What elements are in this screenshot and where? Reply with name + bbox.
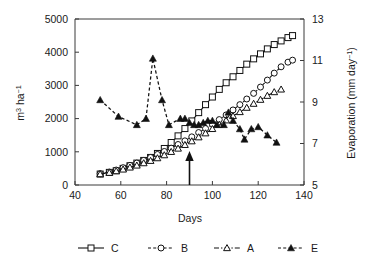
y-axis-left-title-mid: ha	[14, 93, 26, 108]
marker-open-square	[237, 67, 243, 73]
chart-container: 406080100120140 010002000300040005000 57…	[0, 0, 371, 266]
x-axis-title: Days	[178, 212, 202, 224]
marker-open-square	[216, 86, 222, 92]
y-axis-right-title: Evaporation (mm day−1)	[345, 47, 358, 159]
evaporation-volume-chart: 406080100120140 010002000300040005000 57…	[0, 0, 371, 266]
marker-open-circle	[257, 84, 263, 90]
x-tick-label: 80	[161, 189, 173, 201]
y-axis-left-title-sup-minus1: −1	[14, 85, 23, 93]
y-left-tick-label: 5000	[45, 13, 69, 25]
y-axis-right-title-main: Evaporation (mm day	[345, 58, 357, 159]
marker-open-square	[271, 42, 277, 48]
x-tick-label: 140	[295, 189, 313, 201]
x-tick-label: 40	[69, 189, 81, 201]
y-right-tick-label: 5	[312, 179, 318, 191]
y-left-tick-label: 1000	[45, 146, 69, 158]
legend-label-C: C	[111, 242, 119, 254]
marker-open-circle	[244, 96, 250, 102]
marker-open-square	[257, 51, 263, 57]
marker-open-square	[175, 133, 181, 139]
marker-open-square	[251, 56, 257, 62]
marker-open-square	[278, 38, 284, 44]
y-right-tick-label: 9	[312, 96, 318, 108]
x-tick-label: 120	[249, 189, 267, 201]
legend-label-E: E	[311, 242, 318, 254]
marker-open-square	[290, 33, 296, 39]
y-axis-right-title-tail: )	[345, 47, 357, 51]
marker-open-square	[203, 102, 209, 108]
y-axis-right-title-sup: −1	[345, 51, 354, 59]
marker-open-circle	[237, 102, 243, 108]
marker-open-circle	[264, 77, 270, 83]
marker-open-square	[168, 140, 174, 146]
marker-open-circle	[290, 57, 296, 63]
y-left-tick-label: 3000	[45, 79, 69, 91]
y-left-tick-label: 0	[62, 179, 68, 191]
legend-label-A: A	[247, 242, 254, 254]
marker-open-square	[264, 46, 270, 52]
marker-open-square	[244, 61, 250, 67]
marker-open-square	[223, 80, 229, 86]
marker-open-square	[182, 126, 188, 132]
marker-open-square	[230, 74, 236, 80]
y-right-tick-label: 7	[312, 137, 318, 149]
legend-label-B: B	[181, 242, 188, 254]
y-right-tick-label: 13	[312, 13, 324, 25]
y-left-tick-label: 2000	[45, 112, 69, 124]
marker-open-circle	[271, 70, 277, 76]
marker-open-circle	[278, 64, 284, 70]
marker-open-circle	[251, 90, 257, 96]
x-tick-label: 60	[115, 189, 127, 201]
y-right-tick-label: 11	[312, 54, 323, 66]
marker-open-circle	[158, 245, 164, 251]
marker-open-square	[88, 245, 94, 251]
marker-open-square	[196, 110, 202, 116]
y-left-tick-label: 4000	[45, 46, 69, 58]
y-axis-left-title-main: m	[14, 112, 26, 121]
marker-open-square	[209, 94, 215, 100]
x-tick-label: 100	[204, 189, 222, 201]
chart-background	[0, 0, 371, 266]
